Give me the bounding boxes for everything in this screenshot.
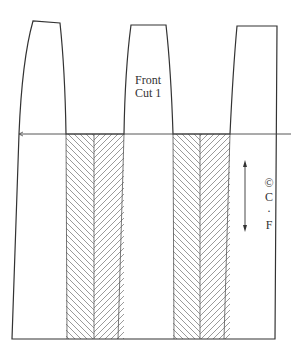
- center-front-marker: © C · F: [262, 176, 276, 232]
- pattern-outline: [12, 21, 277, 339]
- cf-letter-c: C: [262, 190, 276, 204]
- pattern-diagram: [0, 0, 293, 353]
- pleat-band-right: [173, 134, 230, 339]
- cf-letter-f: F: [262, 218, 276, 232]
- piece-label: Front Cut 1: [135, 74, 161, 100]
- pleat-band-left: [66, 134, 124, 339]
- cut-count: Cut 1: [135, 87, 161, 100]
- centerline-icon: ©: [262, 176, 276, 190]
- grainline-arrow-icon: [243, 160, 247, 232]
- cf-dot: ·: [262, 204, 276, 218]
